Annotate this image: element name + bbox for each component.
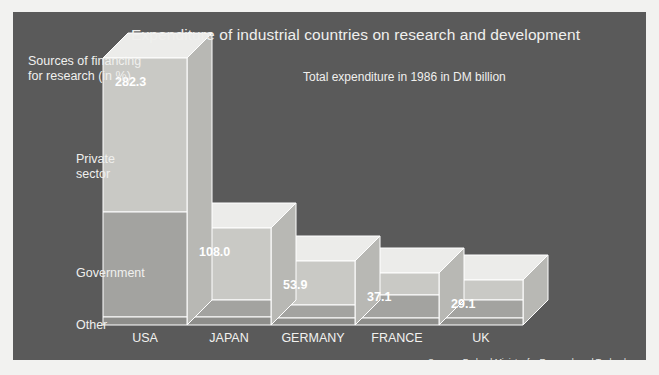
country-label-uk: UK <box>439 331 523 345</box>
bar-segment-other <box>355 318 439 325</box>
axis-label-private-sector: Private sector <box>76 152 115 182</box>
chart-panel: 282.3108.053.937.129.1 Expenditure of in… <box>13 12 646 360</box>
bar-side-face <box>187 33 212 325</box>
source-note: Source: Federal Ministry for Research an… <box>428 357 640 360</box>
chart-page: 282.3108.053.937.129.1 Expenditure of in… <box>0 0 659 375</box>
page-title: Expenditure of industrial countries on r… <box>131 26 580 44</box>
bar-segment-other <box>271 318 355 325</box>
chart-subtitle: Total expenditure in 1986 in DM billion <box>303 70 506 84</box>
axis-label-government: Government <box>76 266 145 281</box>
bar-value-germany: 53.9 <box>283 278 307 292</box>
axis-caption-line1: Sources of financing <box>28 54 141 68</box>
axis-caption: Sources of financingfor research (in %) <box>28 54 141 84</box>
country-label-usa: USA <box>103 331 187 345</box>
bar-value-uk: 29.1 <box>451 297 475 311</box>
axis-caption-line2: for research (in %) <box>28 69 131 83</box>
bar-segment-other <box>103 317 187 325</box>
bar-segment-other <box>439 318 523 325</box>
country-label-germany: GERMANY <box>271 331 355 345</box>
country-label-japan: JAPAN <box>187 331 271 345</box>
bar-value-japan: 108.0 <box>199 245 230 259</box>
bar-segment-government <box>103 212 187 317</box>
country-label-france: FRANCE <box>355 331 439 345</box>
bar-value-france: 37.1 <box>367 290 391 304</box>
bar-segment-other <box>187 317 271 325</box>
